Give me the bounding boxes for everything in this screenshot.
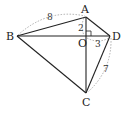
length-ao: 2 bbox=[78, 23, 84, 33]
right-angle-marker bbox=[86, 31, 91, 36]
quadrilateral-diagram: A B O D C 8 2 3 7 bbox=[0, 0, 129, 113]
length-ab: 8 bbox=[47, 12, 53, 22]
label-b: B bbox=[6, 30, 14, 43]
segment-bc bbox=[17, 36, 86, 93]
label-a: A bbox=[80, 3, 90, 16]
length-cd: 7 bbox=[103, 64, 109, 74]
label-c: C bbox=[82, 96, 90, 109]
segment-ad bbox=[86, 17, 110, 36]
length-od: 3 bbox=[95, 39, 101, 49]
label-o: O bbox=[78, 37, 87, 50]
label-d: D bbox=[112, 30, 121, 43]
